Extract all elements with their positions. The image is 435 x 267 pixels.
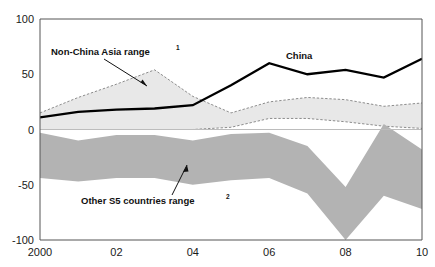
chart-figure: 100500-50-100 20000204060810 Non-China A…	[0, 0, 435, 267]
x-tick-label: 02	[110, 246, 122, 258]
x-tick-label: 10	[416, 246, 428, 258]
annotation-non-china-asia-footnote: 1	[176, 44, 180, 51]
y-tick-label: 50	[22, 68, 34, 80]
chart-svg: 100500-50-100 20000204060810 Non-China A…	[0, 0, 435, 267]
annotation-other-s5-footnote: 2	[226, 193, 230, 200]
annotation-non-china-asia-label: Non-China Asia range	[51, 46, 150, 57]
annotation-china: China	[286, 50, 313, 61]
annotation-other-s5-label: Other S5 countries range	[81, 195, 195, 206]
y-tick-label: -100	[12, 234, 34, 246]
x-tick-label: 08	[339, 246, 351, 258]
y-tick-label: -50	[18, 179, 34, 191]
chart-background	[0, 0, 435, 267]
x-tick-label: 04	[187, 246, 199, 258]
y-tick-label: 0	[28, 124, 34, 136]
annotation-china-label: China	[286, 50, 313, 61]
x-tick-label: 2000	[28, 246, 52, 258]
y-tick-label: 100	[16, 13, 34, 25]
x-tick-label: 06	[263, 246, 275, 258]
